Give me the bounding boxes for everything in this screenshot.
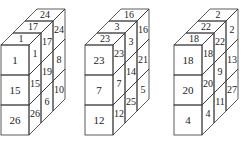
top-cell-number: 17 — [28, 21, 38, 32]
cuboid-1: 1152611724117241519826610 — [1, 9, 65, 135]
side-cell-number: 2 — [230, 24, 235, 35]
front-cell-number: 1 — [12, 54, 18, 66]
side-cell-number: 8 — [57, 54, 62, 65]
side-cell-number: 17 — [42, 36, 52, 47]
side-cell-number: 15 — [30, 78, 40, 89]
side-cell-number: 20 — [203, 78, 213, 89]
side-cell-number: 14 — [126, 66, 136, 77]
top-cell-number: 16 — [124, 9, 134, 20]
top-cell-number: 18 — [189, 33, 199, 44]
top-cell-number: 24 — [40, 9, 50, 20]
side-cell-number: 7 — [117, 78, 122, 89]
top-cell-number: 22 — [201, 21, 211, 32]
side-cell-number: 11 — [215, 96, 225, 107]
front-cell-number: 12 — [94, 114, 105, 126]
top-cell-number: 3 — [115, 21, 120, 32]
side-cell-number: 24 — [54, 24, 64, 35]
front-cell-number: 7 — [96, 84, 102, 96]
side-cell-number: 1 — [33, 48, 38, 59]
side-cell-number: 26 — [30, 108, 40, 119]
side-cell-number: 23 — [114, 48, 124, 59]
side-cell-number: 19 — [42, 66, 52, 77]
side-cell-number: 4 — [206, 108, 211, 119]
side-cell-number: 3 — [129, 36, 134, 47]
side-cell-number: 25 — [126, 96, 136, 107]
front-cell-number: 20 — [183, 84, 195, 96]
top-cell-number: 23 — [100, 33, 110, 44]
side-cell-number: 27 — [227, 84, 237, 95]
side-cell-number: 6 — [45, 96, 50, 107]
side-cell-number: 13 — [227, 54, 237, 65]
front-cell-number: 26 — [10, 114, 22, 126]
front-cell-number: 15 — [10, 84, 22, 96]
side-cell-number: 22 — [215, 36, 225, 47]
top-cell-number: 2 — [216, 9, 221, 20]
cuboid-puzzle-canvas: 1152611724117241519826610237122331623316… — [0, 0, 247, 144]
front-cell-number: 4 — [185, 114, 191, 126]
cuboid-3: 1820418222182222091341127 — [174, 9, 238, 135]
front-cell-number: 23 — [94, 54, 106, 66]
side-cell-number: 10 — [54, 84, 64, 95]
side-cell-number: 21 — [138, 54, 148, 65]
top-cell-number: 1 — [19, 33, 24, 44]
side-cell-number: 18 — [203, 48, 213, 59]
side-cell-number: 12 — [114, 108, 124, 119]
front-cell-number: 18 — [183, 54, 195, 66]
side-cell-number: 9 — [218, 66, 223, 77]
cuboid-2: 2371223316233167142112255 — [85, 9, 149, 135]
side-cell-number: 5 — [141, 84, 146, 95]
side-cell-number: 16 — [138, 24, 148, 35]
